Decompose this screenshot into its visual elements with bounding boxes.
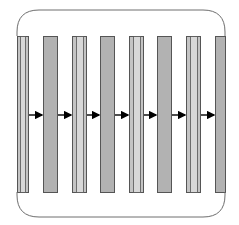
layer-stack-diagram xyxy=(0,0,239,225)
striped-layer xyxy=(73,37,87,193)
solid-layer xyxy=(158,37,172,193)
solid-layer xyxy=(44,37,58,193)
striped-layer xyxy=(18,37,29,193)
solid-layer xyxy=(216,37,226,193)
striped-layer xyxy=(130,37,144,193)
striped-layer xyxy=(187,37,201,193)
solid-layer xyxy=(101,37,115,193)
